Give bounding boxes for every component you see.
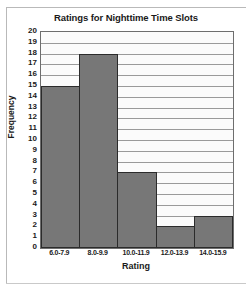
y-tick-label: 18	[3, 49, 37, 57]
y-tick-label: 1	[3, 232, 37, 240]
y-tick-label: 19	[3, 38, 37, 46]
x-tick-label: 8.0-9.9	[78, 249, 116, 256]
y-tick-label: 10	[3, 135, 37, 143]
y-tick-label: 0	[3, 243, 37, 251]
y-tick-label: 2	[3, 221, 37, 229]
y-tick-label: 7	[3, 167, 37, 175]
y-tick-label: 5	[3, 189, 37, 197]
figure-frame-bottom-rule	[6, 283, 246, 284]
figure-frame-top-rule	[6, 7, 246, 8]
y-tick-label: 3	[3, 211, 37, 219]
y-tick-label: 15	[3, 81, 37, 89]
y-tick-label: 13	[3, 103, 37, 111]
x-axis-tick-labels: 6.0-7.98.0-9.910.0-11.912.0-13.914.0-15.…	[40, 249, 232, 256]
bar	[79, 54, 118, 248]
x-tick-label: 12.0-13.9	[155, 249, 193, 256]
y-tick-label: 17	[3, 59, 37, 67]
y-tick-label: 14	[3, 92, 37, 100]
x-axis-title: Rating	[40, 261, 232, 271]
y-tick-label: 8	[3, 157, 37, 165]
y-tick-label: 20	[3, 27, 37, 35]
bar	[194, 216, 233, 248]
bar	[41, 86, 80, 248]
x-tick-label: 14.0-15.9	[194, 249, 232, 256]
x-tick-label: 10.0-11.9	[117, 249, 155, 256]
y-axis-tick-labels: 20191817161514131211109876543210	[0, 31, 37, 247]
bar	[156, 226, 195, 248]
y-tick-label: 12	[3, 113, 37, 121]
y-tick-label: 16	[3, 70, 37, 78]
y-tick-label: 9	[3, 146, 37, 154]
bar-series	[41, 32, 233, 248]
y-tick-label: 4	[3, 200, 37, 208]
x-tick-label: 6.0-7.9	[40, 249, 78, 256]
chart-figure: Ratings for Nighttime Time Slots Frequen…	[0, 0, 252, 299]
y-tick-label: 6	[3, 178, 37, 186]
plot-area	[40, 31, 234, 249]
bar	[117, 172, 156, 248]
y-tick-label: 11	[3, 124, 37, 132]
chart-title: Ratings for Nighttime Time Slots	[0, 12, 252, 23]
